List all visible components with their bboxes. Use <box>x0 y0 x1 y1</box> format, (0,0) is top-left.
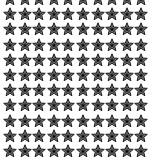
star-icon <box>120 22 135 37</box>
star-icon <box>18 144 33 159</box>
star-icon <box>18 68 33 83</box>
star-icon <box>3 0 18 7</box>
star-icon <box>61 129 76 144</box>
star-icon <box>91 0 106 7</box>
star-icon <box>18 114 33 129</box>
star-icon <box>47 68 62 83</box>
star-icon <box>91 98 106 113</box>
star-icon <box>18 7 33 22</box>
star-icon <box>134 38 149 53</box>
star-icon <box>120 114 135 129</box>
star-icon <box>134 53 149 68</box>
star-icon <box>120 144 135 159</box>
star-icon <box>32 98 47 113</box>
star-pattern-grid <box>3 0 149 159</box>
star-icon <box>76 38 91 53</box>
star-icon <box>76 83 91 98</box>
star-icon <box>18 129 33 144</box>
star-icon <box>76 7 91 22</box>
star-icon <box>134 22 149 37</box>
star-icon <box>61 38 76 53</box>
star-icon <box>3 144 18 159</box>
star-icon <box>76 144 91 159</box>
star-icon <box>76 0 91 7</box>
star-icon <box>32 114 47 129</box>
star-icon <box>47 22 62 37</box>
star-icon <box>76 114 91 129</box>
star-icon <box>91 22 106 37</box>
star-icon <box>76 53 91 68</box>
star-icon <box>105 22 120 37</box>
star-icon <box>120 83 135 98</box>
star-icon <box>76 129 91 144</box>
star-icon <box>91 38 106 53</box>
star-icon <box>47 38 62 53</box>
star-icon <box>105 38 120 53</box>
star-icon <box>61 83 76 98</box>
star-icon <box>134 98 149 113</box>
star-icon <box>134 144 149 159</box>
star-icon <box>134 7 149 22</box>
star-icon <box>18 53 33 68</box>
star-icon <box>134 83 149 98</box>
star-icon <box>18 38 33 53</box>
star-icon <box>120 53 135 68</box>
star-icon <box>91 7 106 22</box>
star-icon <box>134 68 149 83</box>
star-icon <box>76 98 91 113</box>
star-icon <box>134 0 149 7</box>
star-icon <box>120 68 135 83</box>
star-icon <box>3 83 18 98</box>
star-icon <box>91 53 106 68</box>
star-icon <box>91 114 106 129</box>
star-icon <box>47 129 62 144</box>
star-icon <box>32 0 47 7</box>
star-icon <box>32 7 47 22</box>
star-icon <box>105 98 120 113</box>
star-icon <box>47 7 62 22</box>
star-icon <box>3 114 18 129</box>
star-icon <box>61 144 76 159</box>
star-icon <box>32 129 47 144</box>
star-icon <box>3 7 18 22</box>
star-icon <box>105 144 120 159</box>
star-icon <box>3 22 18 37</box>
star-icon <box>47 0 62 7</box>
star-icon <box>18 98 33 113</box>
star-icon <box>32 83 47 98</box>
star-icon <box>91 68 106 83</box>
star-icon <box>105 68 120 83</box>
star-icon <box>32 144 47 159</box>
star-icon <box>18 0 33 7</box>
star-icon <box>3 129 18 144</box>
star-icon <box>47 98 62 113</box>
star-icon <box>105 53 120 68</box>
star-icon <box>120 0 135 7</box>
star-icon <box>120 7 135 22</box>
star-icon <box>3 53 18 68</box>
star-icon <box>120 98 135 113</box>
star-icon <box>61 53 76 68</box>
star-icon <box>61 114 76 129</box>
star-icon <box>32 38 47 53</box>
star-icon <box>47 144 62 159</box>
star-icon <box>47 53 62 68</box>
star-icon <box>32 22 47 37</box>
star-icon <box>134 129 149 144</box>
star-icon <box>61 7 76 22</box>
star-icon <box>32 53 47 68</box>
star-icon <box>32 68 47 83</box>
star-icon <box>120 129 135 144</box>
star-icon <box>91 83 106 98</box>
star-icon <box>18 22 33 37</box>
star-icon <box>76 22 91 37</box>
star-icon <box>47 83 62 98</box>
star-icon <box>105 7 120 22</box>
star-icon <box>134 114 149 129</box>
star-icon <box>120 38 135 53</box>
star-icon <box>61 68 76 83</box>
star-icon <box>91 144 106 159</box>
star-icon <box>61 98 76 113</box>
star-icon <box>105 0 120 7</box>
star-icon <box>47 114 62 129</box>
